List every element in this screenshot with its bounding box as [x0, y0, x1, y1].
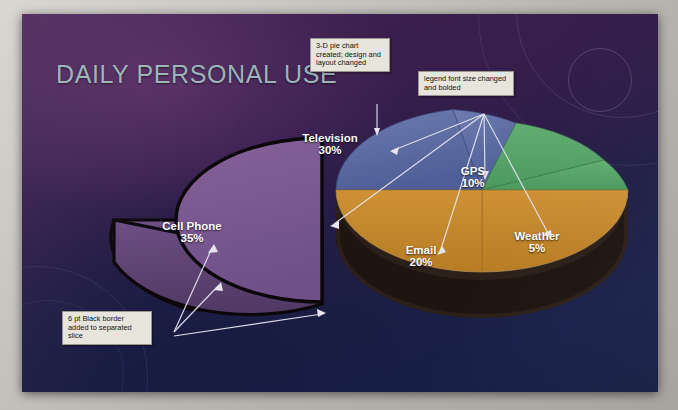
annotation-border-added: 6 pt Black border added to separated sli…	[62, 311, 152, 345]
presentation-slide: Television 30% GPS 10% Weather 5% Email …	[22, 14, 658, 392]
data-label-weather: Weather 5%	[500, 230, 574, 254]
data-label-cell-phone: Cell Phone 35%	[146, 220, 238, 244]
data-label-gps: GPS 10%	[443, 165, 503, 189]
data-label-television: Television 30%	[286, 132, 374, 156]
page-title: DAILY PERSONAL USE	[56, 60, 337, 89]
annotation-pie-created: 3-D pie chart created; design and layout…	[310, 38, 390, 72]
annotation-legend-font: legend font size changed and bolded	[418, 71, 514, 96]
data-label-email: Email 20%	[390, 244, 452, 268]
photograph-of-slide: Television 30% GPS 10% Weather 5% Email …	[0, 0, 678, 410]
